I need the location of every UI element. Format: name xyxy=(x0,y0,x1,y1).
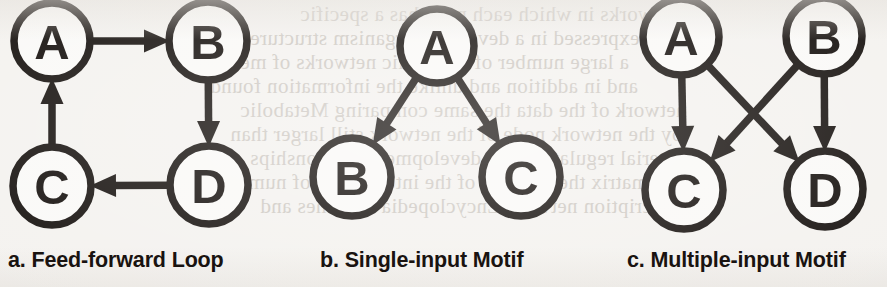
node-label-b-B: B xyxy=(334,151,369,205)
node-label-a-C: C xyxy=(34,160,69,214)
edge-b-A-to-C xyxy=(456,75,489,127)
motif-diagrams-canvas: ABCDABCABCD xyxy=(0,0,887,287)
node-c-D: D xyxy=(787,151,863,227)
edge-c-B-to-C xyxy=(724,63,800,146)
edge-c-A-to-C xyxy=(682,73,683,131)
caption-panel-a: a. Feed-forward Loop xyxy=(8,248,224,273)
node-c-A: A xyxy=(643,0,719,75)
node-label-b-A: A xyxy=(419,20,454,74)
node-label-a-D: D xyxy=(191,159,226,213)
caption-panel-c: c. Multiple-input Motif xyxy=(627,248,846,273)
node-a-A: A xyxy=(14,3,90,79)
node-b-B: B xyxy=(313,138,391,216)
caption-panel-b: b. Single-input Motif xyxy=(320,248,523,273)
node-a-D: D xyxy=(170,146,248,224)
node-label-c-A: A xyxy=(663,11,698,65)
node-a-B: B xyxy=(169,2,247,80)
node-label-a-B: B xyxy=(190,15,225,69)
node-label-c-D: D xyxy=(807,163,842,217)
node-c-B: B xyxy=(786,0,862,74)
node-a-C: C xyxy=(13,147,91,225)
node-b-C: C xyxy=(482,138,560,216)
node-c-C: C xyxy=(645,151,723,229)
node-b-A: A xyxy=(400,9,474,83)
node-label-a-A: A xyxy=(34,15,69,69)
node-label-c-B: B xyxy=(806,10,841,64)
edge-b-A-to-B xyxy=(384,75,418,127)
network-motifs-figure: networks in which each node has a specif… xyxy=(0,0,887,287)
node-label-b-C: C xyxy=(503,151,538,205)
node-label-c-C: C xyxy=(666,164,701,218)
edge-c-A-to-D xyxy=(706,63,785,147)
